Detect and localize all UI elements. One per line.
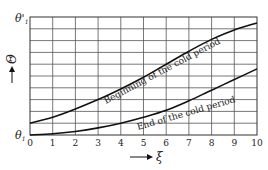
x-tick-label: 4	[118, 138, 124, 148]
x-tick-label: 8	[209, 138, 215, 148]
y-top-label: θ'1	[15, 12, 28, 25]
x-tick-label: 10	[251, 138, 263, 148]
x-axis-arrow-icon	[130, 154, 153, 160]
chart: 012345678910 Beginning of the cold perio…	[0, 0, 268, 170]
x-tick-label: 7	[186, 138, 192, 148]
curve1-label: Beginning of the cold period	[102, 36, 222, 106]
x-axis-label: ξ	[156, 150, 164, 164]
x-tick-label: 9	[231, 138, 237, 148]
x-tick-label: 1	[50, 138, 56, 148]
x-tick-label: 2	[73, 138, 79, 148]
x-tick-label: 6	[163, 138, 169, 148]
x-tick-label: 0	[27, 138, 33, 148]
y-axis-label: Θ	[5, 54, 19, 64]
y-bottom-label: θ1	[15, 129, 25, 142]
x-tick-label: 3	[95, 138, 101, 148]
x-tick-label: 5	[141, 138, 147, 148]
y-axis-arrow-icon	[9, 66, 15, 83]
x-tick-labels: 012345678910	[27, 138, 263, 148]
